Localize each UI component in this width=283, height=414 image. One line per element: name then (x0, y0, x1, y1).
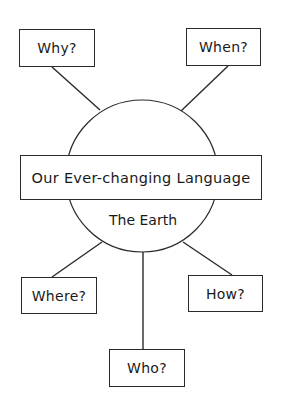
node-how-label: How? (206, 286, 245, 302)
central-title-box: Our Ever-changing Language (20, 155, 262, 200)
node-who-label: Who? (127, 360, 167, 376)
node-where-label: Where? (32, 288, 87, 304)
node-why-label: Why? (37, 40, 77, 56)
central-title: Our Ever-changing Language (32, 170, 251, 186)
earth-label: The Earth (93, 212, 193, 228)
node-when: When? (186, 28, 261, 66)
connector-how (183, 242, 232, 275)
node-when-label: When? (199, 39, 248, 55)
connector-why (52, 67, 100, 110)
node-why: Why? (19, 29, 95, 67)
node-where: Where? (21, 277, 97, 314)
node-how: How? (188, 275, 263, 312)
connector-where (52, 242, 102, 277)
node-who: Who? (109, 349, 185, 387)
connector-when (181, 66, 228, 111)
